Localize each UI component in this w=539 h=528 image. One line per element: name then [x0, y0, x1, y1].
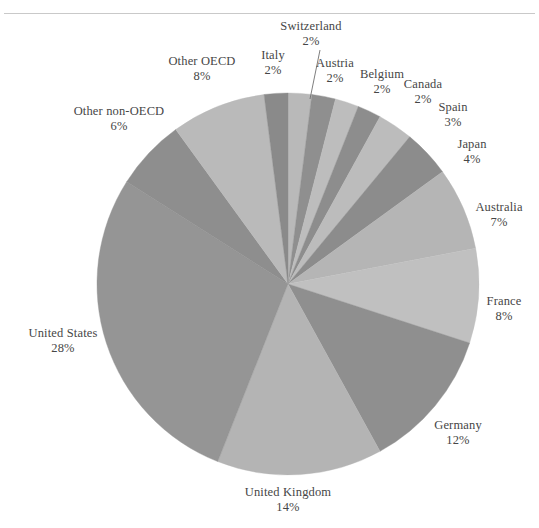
label-japan-name: Japan — [457, 137, 486, 151]
label-france-name: France — [487, 294, 522, 308]
label-other-non-oecd-pct: 6% — [60, 119, 178, 134]
label-switzerland-name: Switzerland — [280, 19, 341, 33]
label-italy-name: Italy — [261, 48, 285, 62]
pie-chart-svg — [0, 0, 539, 528]
label-italy: Italy 2% — [245, 48, 301, 77]
label-canada-name: Canada — [404, 77, 442, 91]
label-united-kingdom-name: United Kingdom — [245, 485, 331, 499]
label-spain-pct: 3% — [424, 115, 482, 130]
label-united-states-name: United States — [29, 326, 98, 340]
label-australia: Australia 7% — [462, 200, 536, 229]
label-japan: Japan 4% — [443, 137, 501, 166]
label-other-oecd-pct: 8% — [154, 69, 250, 84]
label-france-pct: 8% — [473, 309, 535, 324]
pie-chart: Switzerland 2% Italy 2% Austria 2% Belgi… — [0, 0, 539, 528]
label-australia-pct: 7% — [462, 215, 536, 230]
label-united-states: United States 28% — [14, 326, 112, 355]
label-spain-name: Spain — [438, 100, 467, 114]
label-spain: Spain 3% — [424, 100, 482, 129]
label-united-kingdom: United Kingdom 14% — [228, 485, 348, 514]
label-other-oecd-name: Other OECD — [168, 54, 235, 68]
label-germany: Germany 12% — [422, 418, 494, 447]
label-united-states-pct: 28% — [14, 341, 112, 356]
label-united-kingdom-pct: 14% — [228, 500, 348, 515]
label-japan-pct: 4% — [443, 152, 501, 167]
label-italy-pct: 2% — [245, 63, 301, 78]
label-other-non-oecd: Other non-OECD 6% — [60, 104, 178, 133]
label-germany-name: Germany — [434, 418, 482, 432]
label-switzerland-pct: 2% — [246, 34, 376, 49]
label-germany-pct: 12% — [422, 433, 494, 448]
label-other-non-oecd-name: Other non-OECD — [74, 104, 165, 118]
label-france: France 8% — [473, 294, 535, 323]
label-austria-name: Austria — [316, 56, 354, 70]
label-other-oecd: Other OECD 8% — [154, 54, 250, 83]
label-australia-name: Australia — [475, 200, 522, 214]
label-switzerland: Switzerland 2% — [246, 19, 376, 48]
page-root: Switzerland 2% Italy 2% Austria 2% Belgi… — [0, 0, 539, 528]
